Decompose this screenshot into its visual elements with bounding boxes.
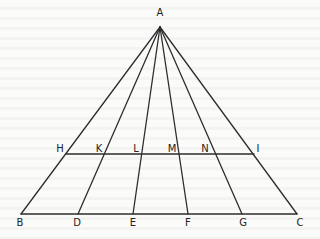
point-label-H: H [56, 143, 64, 154]
point-label-F: F [185, 217, 191, 228]
point-label-E: E [130, 217, 136, 228]
segment-AC [160, 27, 297, 214]
segment-AF [160, 27, 188, 214]
point-label-L: L [133, 143, 139, 154]
segment-AG [160, 27, 242, 214]
point-label-C: C [297, 217, 304, 228]
point-label-G: G [239, 217, 247, 228]
segment-AE [133, 27, 160, 214]
point-label-K: K [96, 143, 103, 154]
point-label-B: B [17, 217, 24, 228]
point-label-I: I [257, 143, 260, 154]
diagram-labels: ABDEFGCHKLMNI [17, 7, 304, 228]
point-label-D: D [73, 217, 81, 228]
point-label-M: M [168, 143, 177, 154]
triangle-diagram: ABDEFGCHKLMNI [0, 0, 320, 239]
point-label-N: N [201, 143, 208, 154]
diagram-segments [21, 27, 297, 214]
point-label-A: A [157, 7, 164, 18]
